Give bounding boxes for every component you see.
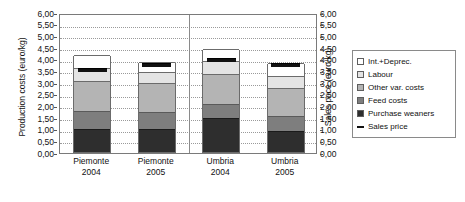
y-tick-secondary-mark-5 — [320, 72, 323, 73]
sales-price-marker[interactable] — [207, 58, 236, 62]
stacked-bar[interactable] — [267, 64, 305, 153]
chart-container: Production costs (euro/kg) Sales price (… — [0, 0, 465, 202]
x-axis-label: Umbria2004 — [188, 156, 253, 178]
y-tick-secondary-mark-9 — [320, 119, 323, 120]
y-tick-secondary-mark-10 — [320, 130, 323, 131]
y-tick-primary-2: 5,00 — [37, 33, 54, 42]
legend-item[interactable]: Purchase weaners — [357, 107, 452, 120]
y-tick-secondary-mark-7 — [320, 95, 323, 96]
bar-group[interactable] — [73, 15, 111, 153]
y-tick-primary-mark-8 — [54, 107, 57, 108]
bar-group[interactable] — [267, 15, 305, 153]
bar-segment-feed-costs[interactable] — [268, 116, 304, 131]
y-tick-primary-mark-5 — [54, 72, 57, 73]
sales-price-marker[interactable] — [271, 63, 300, 67]
sales-price-marker[interactable] — [142, 63, 171, 67]
stacked-bar[interactable] — [202, 50, 240, 153]
x-axis-label-region: Piemonte — [138, 156, 174, 166]
y-tick-primary-10: 1,00 — [37, 126, 54, 135]
y-tick-primary-0: 6,00 — [37, 10, 54, 19]
legend-label: Sales price — [368, 122, 408, 131]
y-tick-primary-mark-3 — [54, 49, 57, 50]
y-tick-secondary-5: 3,50 — [320, 68, 337, 77]
bar-segment-purchase-weaners[interactable] — [203, 118, 239, 152]
x-axis-label-region: Umbria — [271, 156, 298, 166]
y-tick-secondary-10: 1,00 — [320, 126, 337, 135]
legend-item[interactable]: Labour — [357, 68, 452, 81]
legend-label: Labour — [368, 70, 393, 79]
bar-segment-labour[interactable] — [268, 76, 304, 88]
y-tick-primary-1: 5,50 — [37, 21, 54, 30]
bar-segment-other-var-costs[interactable] — [139, 83, 175, 112]
y-tick-primary-mark-6 — [54, 84, 57, 85]
x-axis-label-year: 2005 — [253, 167, 318, 178]
x-axis-label-region: Piemonte — [73, 156, 109, 166]
y-tick-primary-6: 3,00 — [37, 80, 54, 89]
legend-item[interactable]: Sales price — [357, 120, 452, 133]
legend-swatch-icon — [357, 110, 364, 117]
legend-swatch-icon — [357, 84, 364, 91]
bar-segment-purchase-weaners[interactable] — [268, 131, 304, 152]
x-axis-category-labels: Piemonte2004Piemonte2005Umbria2004Umbria… — [59, 156, 317, 190]
y-tick-secondary-mark-12 — [320, 154, 323, 155]
bar-segment-other-var-costs[interactable] — [268, 88, 304, 116]
y-tick-primary-9: 1,50 — [37, 115, 54, 124]
legend-item[interactable]: Feed costs — [357, 94, 452, 107]
y-axis-ticks-primary: 6,005,505,004,504,003,503,002,502,001,50… — [28, 14, 56, 154]
legend-item[interactable]: Other var. costs — [357, 81, 452, 94]
bar-group[interactable] — [202, 15, 240, 153]
y-tick-secondary-12: 0,00 — [320, 150, 337, 159]
y-tick-primary-12: 0,00 — [37, 150, 54, 159]
x-axis-label: Piemonte2004 — [59, 156, 124, 178]
x-axis-label-region: Umbria — [207, 156, 234, 166]
y-tick-secondary-0: 6,00 — [320, 10, 337, 19]
bar-segment-purchase-weaners[interactable] — [139, 129, 175, 152]
y-tick-secondary-mark-0 — [320, 14, 323, 15]
bar-segment-labour[interactable] — [139, 72, 175, 84]
legend-swatch-icon — [357, 58, 364, 65]
y-tick-primary-mark-1 — [54, 25, 57, 26]
bar-segment-feed-costs[interactable] — [139, 112, 175, 128]
y-tick-secondary-4: 4,00 — [320, 56, 337, 65]
y-tick-secondary-3: 4,50 — [320, 45, 337, 54]
y-tick-secondary-mark-1 — [320, 25, 323, 26]
stacked-bar[interactable] — [138, 63, 176, 153]
bar-segment-labour[interactable] — [203, 61, 239, 74]
y-tick-primary-mark-2 — [54, 37, 57, 38]
sales-price-marker[interactable] — [78, 68, 107, 72]
y-tick-primary-11: 0,50 — [37, 138, 54, 147]
plot-area — [59, 14, 317, 154]
y-tick-primary-8: 2,00 — [37, 103, 54, 112]
bar-segment-int-deprec[interactable] — [74, 55, 110, 68]
bar-segment-other-var-costs[interactable] — [74, 81, 110, 111]
y-tick-secondary-2: 5,00 — [320, 33, 337, 42]
y-tick-secondary-7: 2,50 — [320, 91, 337, 100]
y-axis-title-primary: Production costs (euro/kg) — [17, 17, 27, 157]
x-axis-label: Umbria2005 — [253, 156, 318, 178]
y-tick-secondary-1: 5,50 — [320, 21, 337, 30]
y-tick-secondary-mark-11 — [320, 142, 323, 143]
x-axis-label-year: 2004 — [188, 167, 253, 178]
y-tick-primary-mark-12 — [54, 154, 57, 155]
bar-segment-feed-costs[interactable] — [74, 111, 110, 129]
bar-segment-other-var-costs[interactable] — [203, 74, 239, 104]
bar-segment-feed-costs[interactable] — [203, 104, 239, 118]
y-axis-ticks-secondary: 6,005,505,004,504,003,503,002,502,001,50… — [317, 14, 345, 154]
y-tick-secondary-mark-4 — [320, 60, 323, 61]
x-axis-label-year: 2004 — [59, 167, 124, 178]
y-tick-primary-mark-11 — [54, 142, 57, 143]
legend-item[interactable]: Int.+Deprec. — [357, 55, 452, 68]
bar-segment-purchase-weaners[interactable] — [74, 129, 110, 152]
legend-label: Other var. costs — [368, 83, 424, 92]
y-tick-primary-mark-0 — [54, 14, 57, 15]
legend-label: Feed costs — [368, 96, 407, 105]
y-tick-secondary-mark-2 — [320, 37, 323, 38]
y-tick-secondary-mark-3 — [320, 49, 323, 50]
y-tick-primary-4: 4,00 — [37, 56, 54, 65]
bar-group[interactable] — [138, 15, 176, 153]
x-axis-label-year: 2005 — [124, 167, 189, 178]
legend-swatch-icon — [357, 71, 364, 78]
chart-legend: Int.+Deprec.LabourOther var. costsFeed c… — [352, 50, 456, 138]
legend-label: Purchase weaners — [368, 109, 434, 118]
y-tick-secondary-11: 0,50 — [320, 138, 337, 147]
